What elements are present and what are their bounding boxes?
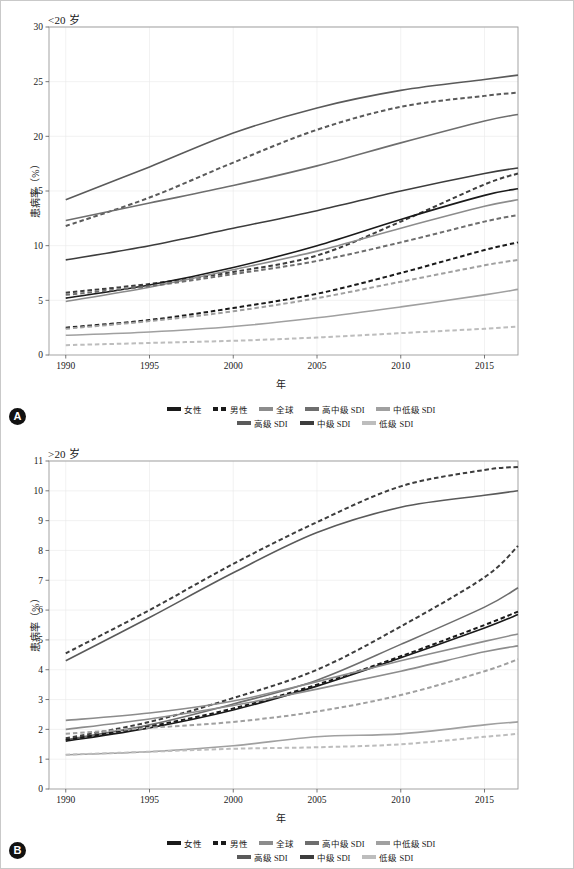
svg-text:20: 20 <box>34 132 44 142</box>
legend-item-low-sdi[interactable]: 低级 SDI <box>362 851 413 863</box>
legend-item-low-middle-sdi[interactable]: 中低级 SDI <box>376 837 436 849</box>
svg-text:4: 4 <box>38 665 43 675</box>
legend-label: 高级 SDI <box>254 417 288 429</box>
figure-root: <20 岁 患病率（%） 年 0510152025301990199520002… <box>0 0 574 869</box>
svg-text:2000: 2000 <box>224 361 243 371</box>
legend-item-female[interactable]: 女性 <box>167 403 202 415</box>
panel-a-badge: A <box>9 408 26 425</box>
series-line <box>66 174 518 293</box>
svg-text:7: 7 <box>38 576 43 586</box>
svg-text:30: 30 <box>34 22 44 32</box>
svg-text:2015: 2015 <box>475 795 494 805</box>
legend-label: 中低级 SDI <box>393 837 436 849</box>
legend-swatch-icon <box>300 421 314 425</box>
legend-swatch-icon <box>376 841 390 845</box>
svg-text:5: 5 <box>38 296 43 306</box>
legend-swatch-icon <box>300 855 314 859</box>
svg-text:2005: 2005 <box>308 795 327 805</box>
legend-label: 男性 <box>230 403 248 415</box>
svg-text:15: 15 <box>34 186 44 196</box>
legend-swatch-icon <box>237 855 251 859</box>
legend-label: 男性 <box>230 837 248 849</box>
legend-swatch-icon <box>376 407 390 411</box>
legend-label: 低级 SDI <box>379 417 413 429</box>
svg-text:2000: 2000 <box>224 795 243 805</box>
legend-label: 中级 SDI <box>317 851 351 863</box>
svg-text:3: 3 <box>38 695 43 705</box>
svg-text:1995: 1995 <box>140 361 159 371</box>
series-line <box>66 659 518 734</box>
legend-swatch-icon <box>305 841 319 845</box>
svg-text:9: 9 <box>38 516 43 526</box>
legend-item-high-sdi[interactable]: 高级 SDI <box>237 851 288 863</box>
legend-row: 高级 SDI中级 SDI低级 SDI <box>189 417 413 429</box>
series-line <box>66 588 518 740</box>
legend-swatch-icon <box>259 407 273 411</box>
svg-text:25: 25 <box>34 77 44 87</box>
legend-item-high-middle-sdi[interactable]: 高中级 SDI <box>305 837 365 849</box>
series-line <box>66 168 518 260</box>
panel-b-legend: 女性男性全球高中级 SDI中低级 SDI高级 SDI中级 SDI低级 SDI <box>151 837 451 863</box>
svg-text:1990: 1990 <box>56 795 75 805</box>
svg-text:8: 8 <box>38 546 43 556</box>
svg-text:1995: 1995 <box>140 795 159 805</box>
panel-a: <20 岁 患病率（%） 年 0510152025301990199520002… <box>1 1 574 435</box>
svg-text:0: 0 <box>38 784 43 794</box>
legend-swatch-icon <box>213 407 227 411</box>
legend-label: 女性 <box>184 403 202 415</box>
legend-swatch-icon <box>362 855 376 859</box>
panel-b: >20 岁 患病率（%） 年 0123456789101119901995200… <box>1 435 574 869</box>
series-line <box>66 734 518 755</box>
legend-item-low-sdi[interactable]: 低级 SDI <box>362 417 413 429</box>
legend-item-male[interactable]: 男性 <box>213 837 248 849</box>
legend-item-high-sdi[interactable]: 高级 SDI <box>237 417 288 429</box>
svg-text:10: 10 <box>34 486 44 496</box>
legend-item-global[interactable]: 全球 <box>259 837 294 849</box>
legend-item-middle-sdi[interactable]: 中级 SDI <box>300 851 351 863</box>
legend-swatch-icon <box>167 841 181 845</box>
legend-item-middle-sdi[interactable]: 中级 SDI <box>300 417 351 429</box>
svg-text:2005: 2005 <box>308 361 327 371</box>
series-line <box>66 615 518 742</box>
legend-item-male[interactable]: 男性 <box>213 403 248 415</box>
legend-label: 高中级 SDI <box>322 837 365 849</box>
series-line <box>66 260 518 329</box>
legend-label: 全球 <box>276 837 294 849</box>
legend-swatch-icon <box>305 407 319 411</box>
legend-label: 中级 SDI <box>317 417 351 429</box>
legend-swatch-icon <box>167 407 181 411</box>
legend-swatch-icon <box>213 841 227 845</box>
svg-text:1990: 1990 <box>56 361 75 371</box>
legend-label: 高中级 SDI <box>322 403 365 415</box>
svg-text:6: 6 <box>38 605 43 615</box>
series-line <box>66 722 518 755</box>
legend-label: 全球 <box>276 403 294 415</box>
legend-row: 高级 SDI中级 SDI低级 SDI <box>189 851 413 863</box>
legend-label: 高级 SDI <box>254 851 288 863</box>
legend-label: 中低级 SDI <box>393 403 436 415</box>
legend-item-high-middle-sdi[interactable]: 高中级 SDI <box>305 403 365 415</box>
svg-text:2015: 2015 <box>475 361 494 371</box>
legend-label: 女性 <box>184 837 202 849</box>
legend-item-female[interactable]: 女性 <box>167 837 202 849</box>
series-line <box>66 215 518 295</box>
legend-label: 低级 SDI <box>379 851 413 863</box>
svg-text:11: 11 <box>34 456 43 466</box>
svg-text:5: 5 <box>38 635 43 645</box>
legend-swatch-icon <box>259 841 273 845</box>
legend-item-global[interactable]: 全球 <box>259 403 294 415</box>
panel-b-plot: 01234567891011199019952000200520102015 <box>1 435 574 835</box>
legend-row: 女性男性全球高中级 SDI中低级 SDI <box>167 837 436 849</box>
legend-row: 女性男性全球高中级 SDI中低级 SDI <box>167 403 436 415</box>
svg-text:2010: 2010 <box>391 795 410 805</box>
series-line <box>66 189 518 298</box>
svg-text:2: 2 <box>38 725 43 735</box>
series-line <box>66 491 518 661</box>
svg-text:10: 10 <box>34 241 44 251</box>
panel-b-badge: B <box>9 842 26 859</box>
legend-item-low-middle-sdi[interactable]: 中低级 SDI <box>376 403 436 415</box>
legend-swatch-icon <box>362 421 376 425</box>
svg-text:1: 1 <box>38 755 43 765</box>
panel-a-plot: 051015202530199019952000200520102015 <box>1 1 574 401</box>
svg-text:2010: 2010 <box>391 361 410 371</box>
